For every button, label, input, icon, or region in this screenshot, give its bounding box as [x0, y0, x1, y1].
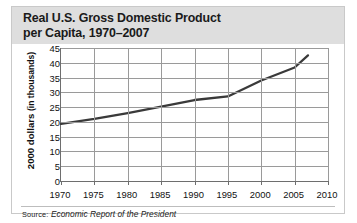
x-tick-label: 2010 [317, 189, 338, 200]
x-tick-label: 1990 [183, 189, 204, 200]
x-tick-label: 2000 [250, 189, 271, 200]
x-tick-label: 1970 [50, 189, 71, 200]
vertical-gridline [261, 48, 262, 181]
x-tick-mark [161, 181, 162, 185]
y-axis-label-normal: (in thousands) [26, 52, 36, 111]
x-tick-mark [61, 181, 62, 185]
vertical-gridline [195, 48, 196, 181]
x-tick-mark [228, 181, 229, 185]
vertical-gridline [228, 48, 229, 181]
vertical-gridline [328, 48, 329, 181]
x-tick-label: 1975 [83, 189, 104, 200]
y-tick-label: 35 [50, 72, 60, 83]
x-tick-mark [261, 181, 262, 185]
y-tick-label: 30 [50, 87, 60, 98]
x-tick-mark [195, 181, 196, 185]
y-axis-label-bold: 2000 dollars [25, 114, 36, 169]
y-tick-label: 25 [50, 102, 60, 113]
vertical-gridline [128, 48, 129, 181]
x-tick-mark [128, 181, 129, 185]
x-tick-mark [295, 181, 296, 185]
source-prefix: Source: [22, 210, 49, 219]
y-tick-label: 20 [50, 116, 60, 127]
vertical-gridline [94, 48, 95, 181]
x-tick-label: 1985 [150, 189, 171, 200]
y-tick-label: 10 [50, 146, 60, 157]
y-tick-label: 40 [50, 57, 60, 68]
x-tick-label: 1980 [116, 189, 137, 200]
page-title: Real U.S. Gross Domestic Product per Cap… [23, 11, 338, 40]
title-band: Real U.S. Gross Domestic Product per Cap… [12, 7, 344, 44]
y-tick-label: 45 [50, 43, 60, 54]
y-tick-label: 15 [50, 131, 60, 142]
plot-wrapper: 2000 dollars (in thousands) 051015202530… [12, 44, 344, 215]
x-tick-label: 1995 [216, 189, 237, 200]
x-tick-label: 2005 [283, 189, 304, 200]
vertical-gridline [161, 48, 162, 181]
plot-area [60, 48, 328, 182]
source-note: Source: Economic Report of the President [22, 209, 176, 219]
x-tick-mark [94, 181, 95, 185]
x-axis-tick-labels: 197019751980198519901995200020052010 [12, 189, 344, 203]
gdp-per-capita-line [61, 55, 308, 124]
vertical-gridline [295, 48, 296, 181]
y-axis-tick-labels: 051015202530354045 [42, 44, 60, 190]
figure-container: Real U.S. Gross Domestic Product per Cap… [11, 6, 345, 214]
x-tick-mark [328, 181, 329, 185]
source-divider [21, 206, 335, 207]
source-title: Economic Report of the President [51, 209, 176, 219]
y-axis-label: 2000 dollars (in thousands) [25, 46, 36, 176]
